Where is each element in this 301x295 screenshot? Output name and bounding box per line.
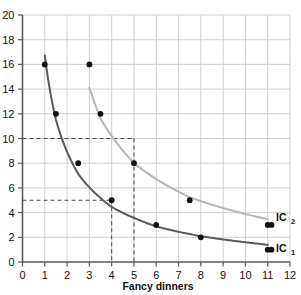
y-tick-label: 16 — [2, 58, 14, 70]
indifference-curve-chart: 012345678910111202468101214161820 Fancy … — [0, 0, 301, 295]
data-point-ic1 — [198, 234, 204, 240]
curve-label-ic1: IC 1 — [276, 242, 295, 257]
data-point-markers — [42, 62, 275, 253]
legend-dot-ic2 — [269, 222, 275, 228]
ic2-label-base: IC — [276, 211, 287, 223]
data-point-ic2 — [98, 111, 104, 117]
x-tick-label: 3 — [86, 269, 92, 281]
x-tick-label: 10 — [239, 269, 251, 281]
y-tick-label: 6 — [8, 182, 14, 194]
x-tick-label: 2 — [64, 269, 70, 281]
curve-label-ic2: IC 2 — [276, 211, 295, 226]
data-point-ic1 — [42, 62, 48, 68]
x-tick-label: 11 — [262, 269, 273, 281]
data-point-ic2 — [86, 62, 92, 68]
x-tick-label: 6 — [153, 269, 159, 281]
ic1-label-base: IC — [276, 242, 287, 254]
ic1-label-subscript: 1 — [291, 248, 295, 257]
x-tick-label: 7 — [175, 269, 181, 281]
data-point-ic2 — [131, 160, 137, 166]
y-tick-label: 8 — [8, 157, 14, 169]
y-tick-label: 2 — [8, 231, 14, 243]
x-tick-label: 12 — [284, 269, 296, 281]
y-tick-label: 18 — [2, 34, 14, 46]
x-tick-label: 9 — [220, 269, 226, 281]
x-axis-title: Fancy dinners — [122, 280, 193, 292]
x-tick-label: 5 — [131, 269, 137, 281]
y-tick-label: 14 — [2, 83, 14, 95]
y-tick-label: 20 — [2, 9, 14, 21]
data-point-ic1 — [53, 111, 59, 117]
data-point-ic1 — [153, 222, 159, 228]
y-tick-label: 4 — [8, 207, 14, 219]
ic2-label-subscript: 2 — [291, 217, 295, 226]
y-tick-label: 0 — [8, 256, 14, 268]
data-point-ic1 — [75, 160, 81, 166]
tick-labels: 012345678910111202468101214161820 — [2, 9, 296, 281]
legend-dot-ic1 — [269, 247, 275, 253]
dashed-guide-lines — [23, 139, 134, 263]
x-tick-label: 4 — [109, 269, 115, 281]
y-tick-label: 10 — [2, 133, 14, 145]
x-tick-label: 1 — [42, 269, 48, 281]
x-tick-label: 0 — [19, 269, 25, 281]
data-point-ic2 — [187, 197, 193, 203]
chart-container: 012345678910111202468101214161820 Fancy … — [0, 0, 301, 295]
y-tick-label: 12 — [2, 108, 14, 120]
axis-ticks — [18, 15, 290, 267]
data-point-ic1 — [109, 197, 115, 203]
x-tick-label: 8 — [198, 269, 204, 281]
